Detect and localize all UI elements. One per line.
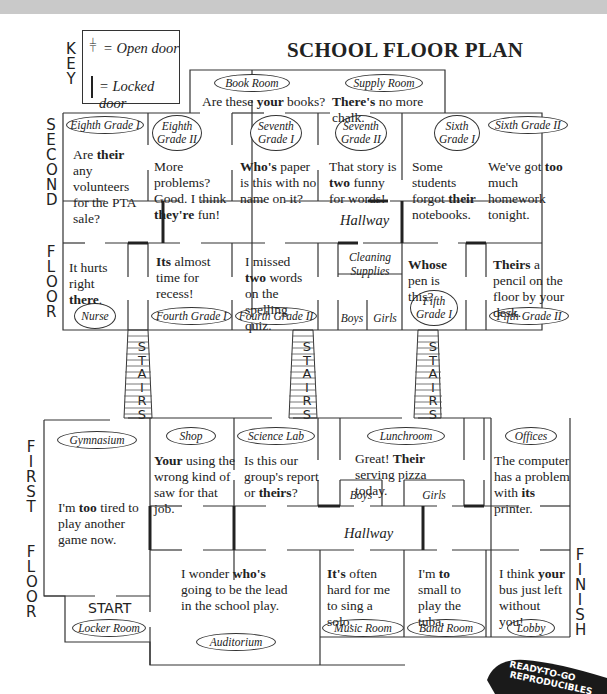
room-label-auditorium: Auditorium <box>196 633 276 651</box>
hallway-label-2f: Hallway <box>340 212 389 229</box>
sentence-eighth-grade-ii: More problems? Good. I think they're fun… <box>154 159 236 223</box>
sentence-fourth-grade-ii: I missed two words on the spelling quiz. <box>245 254 311 334</box>
room-label-locker-room: Locker Room <box>72 619 146 637</box>
sentence-band-room: I'm to small to play the tuba. <box>418 566 476 630</box>
sentence-nurse: It hurts right there. <box>69 260 127 308</box>
sentence-lobby: I think your bus just left without you! <box>499 566 565 630</box>
sentence-sixth-grade-i: Some students forgot their notebooks. <box>412 159 480 223</box>
sentence-auditorium: I wonder who's going to be the lead in t… <box>181 566 291 614</box>
hallway-label-1f: Hallway <box>344 525 393 542</box>
sentence-fourth-grade-i: Its almost time for recess! <box>156 254 232 302</box>
sentence-eighth-grade-i: Are their any volunteers for the PTA sal… <box>73 147 145 227</box>
room-label-boys-2f: Boys <box>340 311 364 325</box>
sentence-lunchroom: Great! Their serving pizza today. <box>355 451 455 499</box>
room-label-offices: Offices <box>505 427 557 445</box>
sentence-supply-room: There's no more chalk. <box>332 94 452 126</box>
room-label-supply-room: Supply Room <box>345 74 423 92</box>
sentence-science-lab: Is this our group's report or theirs? <box>244 453 320 501</box>
room-label-gymnasium: Gymnasium <box>57 431 137 449</box>
sentence-offices: The computer has a problem with its prin… <box>494 453 570 517</box>
sentence-seventh-grade-ii: That story is two funny for words! <box>329 159 397 207</box>
room-label-shop: Shop <box>166 427 216 445</box>
sentence-fifth-grade-i: Whose pen is this? <box>408 257 466 305</box>
room-label-book-room: Book Room <box>214 74 290 92</box>
sentence-fifth-grade-ii: Theirs a pencil on the floor by your des… <box>493 257 565 321</box>
sentence-music-room: It's often hard for me to sing a solo. <box>327 566 397 630</box>
room-label-fourth-grade-i: Fourth Grade I <box>151 307 232 325</box>
room-label-girls-2f: Girls <box>370 311 400 325</box>
room-label-sixth-grade-ii: Sixth Grade II <box>488 116 568 134</box>
room-label-cleaning-supplies: Cleaning Supplies <box>340 250 400 278</box>
sentence-shop: Your using the wrong kind of saw for tha… <box>154 453 238 517</box>
room-label-eighth-grade-i: Eighth Grade I <box>66 116 144 134</box>
sentence-seventh-grade-i: Who's paper is this with no name on it? <box>240 159 318 207</box>
room-label-science-lab: Science Lab <box>237 427 315 445</box>
room-label-eighth-grade-ii: Eighth Grade II <box>152 115 202 151</box>
sentence-sixth-grade-ii: We've got too much homework tonight. <box>488 159 570 223</box>
sentence-gymnasium: I'm too tired to play another game now. <box>58 500 142 548</box>
room-label-seventh-grade-i: Seventh Grade I <box>250 115 302 151</box>
room-label-lunchroom: Lunchroom <box>367 427 445 445</box>
